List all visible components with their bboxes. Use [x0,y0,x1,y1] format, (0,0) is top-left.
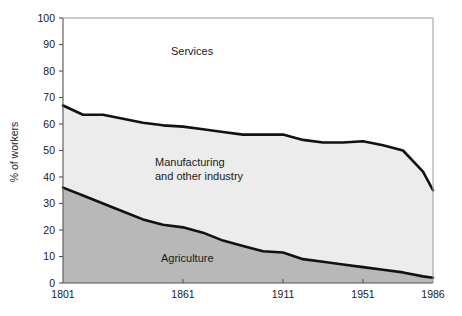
x-axis-tick-label: 1861 [171,288,195,300]
x-axis-tick-label: 1986 [421,288,445,300]
workforce-composition-area-chart: 0102030405060708090100 18011861191119511… [0,0,462,316]
x-axis-tick-label: 1801 [51,288,75,300]
series-label-manufacturing-line1: Manufacturing [155,156,225,168]
y-axis-title: % of workers [8,122,20,183]
y-axis-tick-label: 0 [49,277,55,289]
y-axis-tick-label: 50 [43,144,55,156]
y-axis-tick-label: 70 [43,91,55,103]
series-label-services: Services [171,45,214,57]
chart-container: 0102030405060708090100 18011861191119511… [0,0,462,316]
y-axis-tick-label: 40 [43,171,55,183]
y-axis-tick-label: 80 [43,65,55,77]
y-axis-tick-label: 10 [43,250,55,262]
y-axis-tick-label: 60 [43,118,55,130]
y-axis-tick-label: 90 [43,38,55,50]
x-axis-tick-label: 1951 [351,288,375,300]
x-axis-tick-label: 1911 [272,288,295,300]
plot-areas [63,18,433,283]
series-label-manufacturing-line2: and other industry [155,170,244,182]
y-axis-tick-label: 100 [37,12,55,24]
series-label-agriculture: Agriculture [161,252,214,264]
y-axis-tick-label: 20 [43,224,55,236]
y-axis-tick-label: 30 [43,197,55,209]
